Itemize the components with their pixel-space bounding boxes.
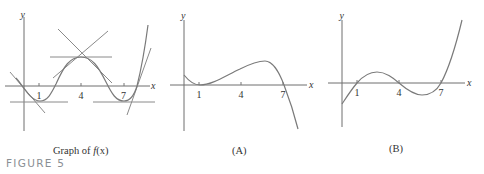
panel-f-graph: y x 1 4 7	[5, 9, 156, 131]
tangent-line-x8	[127, 48, 151, 115]
tangent-line-x4-neg	[58, 29, 112, 83]
tick-label-1: 1	[197, 89, 202, 100]
tick-label-4: 4	[79, 90, 84, 101]
y-axis-label: y	[20, 9, 26, 20]
tick-label-1: 1	[355, 87, 360, 98]
tick-label-1: 1	[37, 90, 42, 101]
panel-b-graph: y x 1 4 7	[328, 10, 472, 127]
caption-f-text: Graph of	[53, 145, 93, 156]
caption-b: (B)	[389, 143, 403, 154]
x-axis-label: x	[308, 79, 314, 90]
x-axis-label: x	[150, 80, 156, 91]
x-axis-label: x	[466, 77, 472, 88]
panel-a-graph: y x 1 4 7	[170, 10, 314, 131]
tick-label-7: 7	[281, 89, 286, 100]
tick-label-7: 7	[439, 87, 444, 98]
caption-f: Graph of f(x)	[53, 145, 108, 156]
curve-b	[342, 20, 462, 104]
tick-label-4: 4	[397, 87, 402, 98]
caption-a: (A)	[232, 145, 247, 156]
caption-f-arg: (x)	[96, 145, 108, 156]
tick-label-7: 7	[121, 90, 126, 101]
y-axis-label: y	[180, 10, 186, 21]
figure-label: FIGURE 5	[6, 157, 65, 169]
y-axis-label: y	[339, 10, 345, 21]
tick-label-4: 4	[239, 89, 244, 100]
